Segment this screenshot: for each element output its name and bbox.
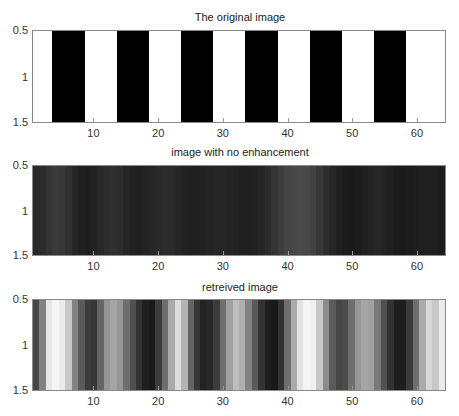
y-tick-label: 1.5 — [2, 384, 28, 396]
x-tick-label: 30 — [217, 127, 229, 139]
x-tick-mark — [93, 386, 94, 390]
x-tick-mark — [158, 386, 159, 390]
x-tick-mark — [417, 251, 418, 255]
x-tick-label: 20 — [152, 395, 164, 407]
x-tick-mark — [223, 251, 224, 255]
x-tick-label: 50 — [346, 395, 358, 407]
x-tick-mark — [158, 118, 159, 122]
x-tick-label: 20 — [152, 260, 164, 272]
x-tick-label: 60 — [411, 127, 423, 139]
y-tick-label: 0.5 — [2, 159, 28, 171]
x-tick-mark — [288, 118, 289, 122]
x-tick-label: 60 — [411, 260, 423, 272]
x-tick-label: 10 — [87, 395, 99, 407]
x-tick-label: 60 — [411, 395, 423, 407]
x-tick-label: 50 — [346, 127, 358, 139]
y-tick-label: 1 — [2, 339, 28, 351]
x-tick-mark — [417, 386, 418, 390]
y-tick-label: 1 — [2, 71, 28, 83]
y-tick-label: 1.5 — [2, 249, 28, 261]
x-tick-label: 40 — [281, 260, 293, 272]
x-tick-label: 30 — [217, 395, 229, 407]
x-tick-mark — [223, 386, 224, 390]
x-tick-mark — [288, 386, 289, 390]
y-tick-label: 0.5 — [2, 293, 28, 305]
x-tick-label: 30 — [217, 260, 229, 272]
x-tick-mark — [223, 118, 224, 122]
plot-title: image with no enhancement — [32, 146, 448, 158]
x-tick-mark — [417, 118, 418, 122]
image-axes — [32, 30, 446, 123]
x-tick-label: 20 — [152, 127, 164, 139]
x-tick-mark — [288, 251, 289, 255]
x-tick-mark — [352, 251, 353, 255]
x-tick-mark — [158, 251, 159, 255]
pixel-column — [439, 166, 445, 255]
x-tick-label: 40 — [281, 127, 293, 139]
y-tick-label: 0.5 — [2, 24, 28, 36]
x-tick-mark — [352, 386, 353, 390]
x-tick-mark — [352, 118, 353, 122]
x-tick-mark — [93, 118, 94, 122]
x-tick-label: 50 — [346, 260, 358, 272]
plot-title: retreived image — [32, 281, 448, 293]
pixel-column — [439, 31, 445, 122]
plot-title: The original image — [32, 11, 448, 23]
x-tick-mark — [93, 251, 94, 255]
image-axes — [32, 299, 446, 391]
x-tick-label: 10 — [87, 127, 99, 139]
x-tick-label: 40 — [281, 395, 293, 407]
y-tick-label: 1.5 — [2, 116, 28, 128]
pixel-column — [439, 300, 445, 390]
image-axes — [32, 165, 446, 256]
y-tick-label: 1 — [2, 205, 28, 217]
x-tick-label: 10 — [87, 260, 99, 272]
